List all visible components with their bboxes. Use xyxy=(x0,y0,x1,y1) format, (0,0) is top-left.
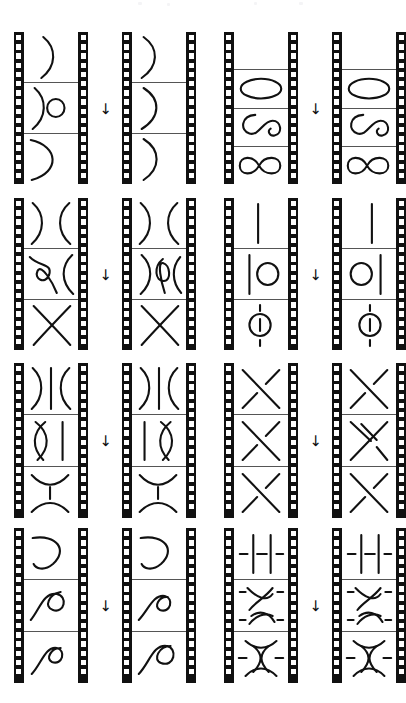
sprocket-hole xyxy=(334,394,339,399)
strip-4[interactable] xyxy=(332,32,406,184)
sprocket-hole xyxy=(334,164,339,169)
sprocket-hole xyxy=(334,136,339,141)
film-frame[interactable] xyxy=(234,147,288,184)
sprocket-hole xyxy=(16,44,21,49)
film-frame[interactable] xyxy=(342,32,396,70)
sprocket-hole xyxy=(81,449,86,454)
sprocket-hole xyxy=(399,201,404,206)
film-frame[interactable] xyxy=(234,249,288,300)
film-frame[interactable] xyxy=(24,32,78,83)
film-frame[interactable] xyxy=(132,467,186,518)
strip-9[interactable] xyxy=(14,363,88,518)
film-frame[interactable] xyxy=(24,467,78,518)
strip-5[interactable] xyxy=(14,198,88,350)
film-frame[interactable] xyxy=(342,415,396,467)
film-frame[interactable] xyxy=(132,249,186,300)
film-frame[interactable] xyxy=(342,580,396,632)
film-frame[interactable] xyxy=(234,198,288,249)
film-frame[interactable] xyxy=(132,528,186,580)
film-frame[interactable] xyxy=(24,528,78,580)
sprocket-hole xyxy=(124,256,129,261)
sprocket-hole xyxy=(124,63,129,68)
sprocket-hole xyxy=(124,53,129,58)
sprocket-hole xyxy=(291,531,296,536)
sprocket-hole xyxy=(399,118,404,123)
film-frame[interactable] xyxy=(234,32,288,70)
film-frame[interactable] xyxy=(342,198,396,249)
film-frame[interactable] xyxy=(132,32,186,83)
film-frame[interactable] xyxy=(132,632,186,683)
sprocket-hole xyxy=(81,430,86,435)
sprocket-hole xyxy=(81,568,86,573)
sprocket-hole xyxy=(16,145,21,150)
film-frame[interactable] xyxy=(234,580,288,632)
sprocket-hole xyxy=(226,605,231,610)
film-frame[interactable] xyxy=(24,83,78,134)
film-frame[interactable] xyxy=(24,363,78,415)
film-frame[interactable] xyxy=(234,363,288,415)
film-frame[interactable] xyxy=(24,198,78,249)
sprocket-hole xyxy=(81,330,86,335)
scan-artifact xyxy=(138,2,142,5)
sprocket-hole xyxy=(226,440,231,445)
film-frame[interactable] xyxy=(342,70,396,108)
film-frame[interactable] xyxy=(342,109,396,147)
film-frame[interactable] xyxy=(24,415,78,467)
film-frame[interactable] xyxy=(342,249,396,300)
film-frame[interactable] xyxy=(234,415,288,467)
film-frame[interactable] xyxy=(342,528,396,580)
sprocket-hole xyxy=(334,366,339,371)
film-frame[interactable] xyxy=(342,300,396,350)
film-frame[interactable] xyxy=(234,528,288,580)
strip-12[interactable] xyxy=(332,363,406,518)
film-frame[interactable] xyxy=(234,467,288,518)
film-frame[interactable] xyxy=(132,83,186,134)
film-frame[interactable] xyxy=(132,198,186,249)
film-frame[interactable] xyxy=(132,300,186,350)
strip-8[interactable] xyxy=(332,198,406,350)
film-frame[interactable] xyxy=(342,147,396,184)
film-frame[interactable] xyxy=(132,580,186,632)
film-frame[interactable] xyxy=(24,134,78,184)
film-frame[interactable] xyxy=(234,300,288,350)
sprocket-hole xyxy=(16,430,21,435)
sprocket-hole xyxy=(291,669,296,674)
film-frame[interactable] xyxy=(132,363,186,415)
film-frame[interactable] xyxy=(234,109,288,147)
film-frame[interactable] xyxy=(342,632,396,683)
sprocket-hole xyxy=(124,549,129,554)
film-frame[interactable] xyxy=(132,415,186,467)
strip-3[interactable] xyxy=(224,32,298,184)
arrow-icon: → xyxy=(97,102,112,115)
sprocket-hole xyxy=(124,614,129,619)
strip-15[interactable] xyxy=(224,528,298,683)
strip-13[interactable] xyxy=(14,528,88,683)
film-frame[interactable] xyxy=(234,70,288,108)
sprocket-hole xyxy=(226,595,231,600)
strip-14[interactable] xyxy=(122,528,196,683)
sprocket-strip-right xyxy=(397,198,406,350)
strip-16[interactable] xyxy=(332,528,406,683)
sprocket-hole xyxy=(291,201,296,206)
sprocket-hole xyxy=(334,201,339,206)
film-frame[interactable] xyxy=(234,632,288,683)
sprocket-hole xyxy=(399,595,404,600)
strip-11[interactable] xyxy=(224,363,298,518)
sprocket-hole xyxy=(226,136,231,141)
film-frame[interactable] xyxy=(24,632,78,683)
film-frame[interactable] xyxy=(24,249,78,300)
strip-7[interactable] xyxy=(224,198,298,350)
film-frame[interactable] xyxy=(132,134,186,184)
strip-6[interactable] xyxy=(122,198,196,350)
strip-2[interactable] xyxy=(122,32,196,184)
film-frame[interactable] xyxy=(24,300,78,350)
strip-10[interactable] xyxy=(122,363,196,518)
strip-1[interactable] xyxy=(14,32,88,184)
film-frame[interactable] xyxy=(342,363,396,415)
sprocket-hole xyxy=(189,210,194,215)
film-frame[interactable] xyxy=(24,580,78,632)
sprocket-hole xyxy=(334,577,339,582)
sprocket-hole xyxy=(124,384,129,389)
sprocket-hole xyxy=(334,540,339,545)
film-frame[interactable] xyxy=(342,467,396,518)
